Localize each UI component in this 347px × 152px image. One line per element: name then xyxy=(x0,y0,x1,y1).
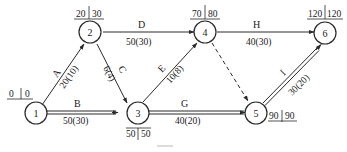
activity-c-duration: 6(4) xyxy=(100,64,117,83)
activity-h-duration: 40(30) xyxy=(246,37,271,48)
activity-b-duration: 50(30) xyxy=(63,116,88,127)
node-6-times: 120 120 xyxy=(307,5,343,19)
node-5-es: 90 xyxy=(269,111,279,121)
activity-c-name: C xyxy=(116,64,129,75)
network-diagram: A 20(10) B 50(30) C 6(4) D 50(30) E 10(8… xyxy=(0,0,347,152)
activity-g-duration: 40(20) xyxy=(175,116,200,127)
node-5-times: 90 90 xyxy=(268,110,297,122)
activity-d-arrow: D 50(30) xyxy=(103,19,194,48)
node-3-ls: 50 xyxy=(141,129,151,139)
activity-b-name: B xyxy=(74,98,81,109)
node-2-es: 20 xyxy=(76,9,86,19)
activity-b-arrow: B 50(30) xyxy=(46,98,118,127)
node-1: 1 xyxy=(25,102,47,124)
node-5-label: 5 xyxy=(254,108,259,119)
caption-mark xyxy=(157,145,173,147)
node-4-label: 4 xyxy=(203,27,208,38)
node-4-ls: 80 xyxy=(208,9,218,19)
node-2-label: 2 xyxy=(88,27,93,38)
activity-e-arrow: E 10(8) xyxy=(143,43,197,102)
node-1-label: 1 xyxy=(34,108,39,119)
activity-e-duration: 10(8) xyxy=(164,63,186,86)
node-5-ls: 90 xyxy=(285,111,295,121)
activity-d-duration: 50(30) xyxy=(126,37,151,48)
node-6: 6 xyxy=(314,22,336,44)
node-6-ls: 120 xyxy=(327,9,342,19)
node-1-times: 0 0 xyxy=(7,88,33,99)
activity-h-arrow: H 40(30) xyxy=(217,19,314,48)
activity-g-name: G xyxy=(181,98,188,109)
activity-a-arrow: A 20(10) xyxy=(42,44,84,105)
node-4: 4 xyxy=(194,21,216,43)
dummy-activity-arrow xyxy=(212,43,248,101)
node-2-ls: 30 xyxy=(92,9,102,19)
node-3-es: 50 xyxy=(126,129,136,139)
activity-g-arrow: G 40(20) xyxy=(149,98,245,127)
node-4-es: 70 xyxy=(192,9,202,19)
node-3-label: 3 xyxy=(136,108,141,119)
node-1-ls: 0 xyxy=(25,89,30,99)
node-6-es: 120 xyxy=(308,9,323,19)
activity-i-duration: 30(20) xyxy=(286,72,312,98)
node-3-times: 50 50 xyxy=(126,128,151,140)
node-6-label: 6 xyxy=(323,28,328,39)
node-4-times: 70 80 xyxy=(190,5,220,19)
node-2-times: 20 30 xyxy=(74,6,104,19)
node-3: 3 xyxy=(127,102,149,124)
node-2: 2 xyxy=(79,21,101,43)
activity-i-name: I xyxy=(278,67,288,77)
activity-d-name: D xyxy=(138,19,145,30)
node-5: 5 xyxy=(245,102,267,124)
activity-c-arrow: C 6(4) xyxy=(97,44,129,103)
node-1-es: 0 xyxy=(9,89,14,99)
activity-i-arrow: I 30(20) xyxy=(263,45,321,106)
activity-e-name: E xyxy=(155,62,167,74)
activity-h-name: H xyxy=(253,19,260,30)
